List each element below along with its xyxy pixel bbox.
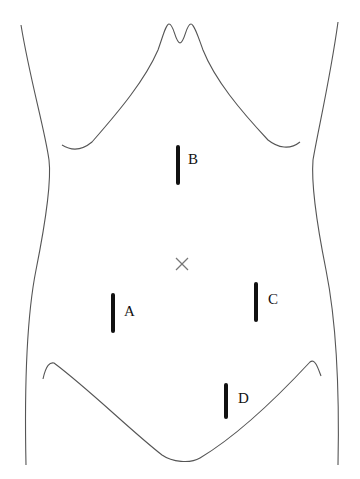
- right-flank-outline: [313, 22, 339, 465]
- left-flank-outline: [21, 25, 50, 465]
- abdomen-diagram: B A C D: [0, 0, 360, 479]
- pelvic-outline: [43, 361, 321, 461]
- incision-label-c: C: [268, 291, 278, 307]
- incision-label-d: D: [238, 390, 249, 406]
- umbilicus-x-marker: [176, 258, 188, 270]
- incision-label-b: B: [188, 151, 198, 167]
- incision-label-a: A: [124, 303, 135, 319]
- costal-margin-outline: [62, 24, 300, 149]
